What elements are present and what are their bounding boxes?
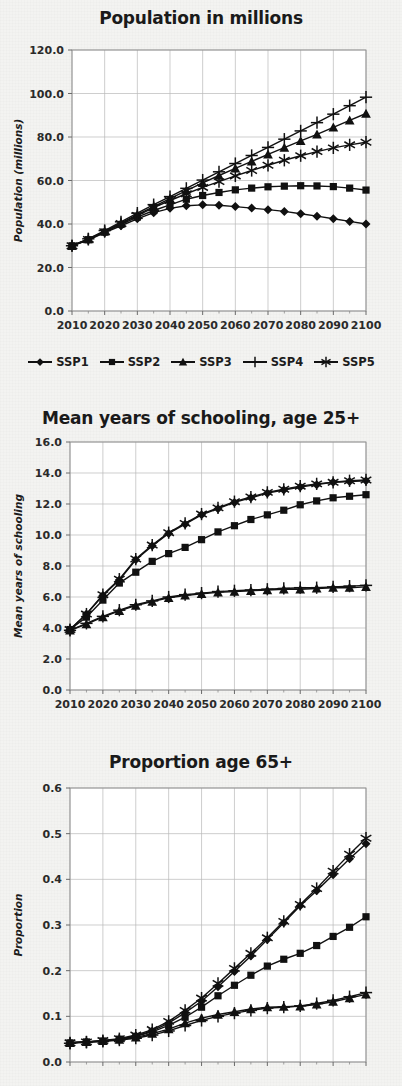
series-marker-square [313, 942, 320, 949]
series-marker-square [109, 359, 115, 365]
legend-item-ssp1[interactable]: SSP1 [27, 355, 88, 369]
legend-marker-triangle-icon [170, 355, 196, 369]
series-marker-plus [249, 357, 260, 368]
chart-panel-population: Population in millions 0.020.040.060.080… [0, 0, 402, 390]
series-marker-square [346, 924, 353, 931]
series-marker-square [165, 550, 172, 557]
legend-item-label: SSP1 [56, 355, 88, 369]
plot-area-population: 0.020.040.060.080.0100.0120.020102020203… [0, 28, 402, 373]
x-axis-tick-label: 2050 [186, 698, 217, 711]
x-axis-tick-label: 2080 [285, 698, 316, 711]
y-axis-tick-label: 0.0 [43, 684, 63, 697]
x-axis-tick-label: 2030 [120, 698, 151, 711]
series-marker-square [215, 189, 222, 196]
x-axis-tick-label: 2080 [285, 319, 316, 332]
series-marker-square [247, 972, 254, 979]
series-marker-square [264, 511, 271, 518]
population-chart-svg: 0.020.040.060.080.0100.0120.020102020203… [0, 28, 402, 373]
chart-panel-proportion: Proportion age 65+ 0.00.10.20.30.40.50.6… [0, 730, 402, 1086]
series-marker-square [214, 528, 221, 535]
y-axis-tick-label: 10.0 [35, 529, 62, 542]
series-marker-square [280, 956, 287, 963]
y-axis-tick-label: 2.0 [43, 653, 63, 666]
series-marker-square [248, 185, 255, 192]
x-axis-tick-label: 2020 [88, 698, 119, 711]
y-axis-title: Proportion [12, 894, 24, 957]
y-axis-tick-label: 0.5 [43, 828, 63, 841]
x-axis-tick-label: 2020 [89, 319, 120, 332]
legend-item-ssp4[interactable]: SSP4 [242, 355, 303, 369]
x-axis-tick-label: 2030 [122, 319, 153, 332]
series-marker-square [313, 497, 320, 504]
series-marker-square [232, 186, 239, 193]
y-axis-tick-label: 0.0 [45, 305, 65, 318]
x-axis-tick-label: 2100 [351, 698, 382, 711]
y-axis-tick-label: 6.0 [43, 591, 63, 604]
x-axis-tick-label: 2040 [155, 319, 186, 332]
y-axis-tick-label: 8.0 [43, 560, 63, 573]
y-axis-tick-label: 14.0 [35, 467, 62, 480]
series-marker-square [362, 186, 369, 193]
series-marker-square [182, 544, 189, 551]
series-marker-square [198, 536, 205, 543]
chart-panel-schooling: Mean years of schooling, age 25+ 0.02.04… [0, 390, 402, 730]
legend-marker-asterisk-icon [313, 355, 339, 369]
y-axis-title: Mean years of schooling [12, 494, 24, 638]
x-axis-tick-label: 2090 [318, 319, 349, 332]
y-axis-tick-label: 0.3 [43, 919, 63, 932]
series-marker-square [330, 183, 337, 190]
series-marker-square [247, 516, 254, 523]
series-marker-square [330, 933, 337, 940]
series-marker-square [297, 182, 304, 189]
series-marker-square [280, 507, 287, 514]
series-marker-square [362, 913, 369, 920]
legend-item-label: SSP4 [271, 355, 303, 369]
y-axis-tick-label: 40.0 [37, 218, 64, 231]
x-axis-tick-label: 2060 [219, 698, 250, 711]
y-axis-tick-label: 0.0 [43, 1056, 63, 1069]
y-axis-tick-label: 120.0 [29, 44, 64, 57]
plot-area-proportion: 0.00.10.20.30.40.50.6Proportion [0, 772, 402, 1082]
legend-marker-diamond-icon [27, 355, 53, 369]
chart-title-proportion: Proportion age 65+ [0, 730, 402, 772]
proportion-chart-svg: 0.00.10.20.30.40.50.6Proportion [0, 772, 402, 1082]
series-marker-square [231, 522, 238, 529]
series-marker-square [346, 493, 353, 500]
series-marker-square [346, 185, 353, 192]
schooling-chart-svg: 0.02.04.06.08.010.012.014.016.0201020202… [0, 428, 402, 728]
figure-page: Population in millions 0.020.040.060.080… [0, 0, 402, 1086]
series-marker-square [132, 569, 139, 576]
series-marker-diamond [36, 358, 44, 366]
x-axis-tick-label: 2010 [57, 319, 88, 332]
series-marker-square [330, 494, 337, 501]
chart-title-schooling: Mean years of schooling, age 25+ [0, 390, 402, 428]
legend-item-ssp5[interactable]: SSP5 [313, 355, 374, 369]
series-marker-square [231, 982, 238, 989]
series-marker-square [297, 501, 304, 508]
legend-marker-square-icon [99, 355, 125, 369]
y-axis-tick-label: 0.1 [43, 1010, 63, 1023]
x-axis-tick-label: 2090 [318, 698, 349, 711]
x-axis-tick-label: 2100 [351, 319, 382, 332]
series-marker-square [198, 1004, 205, 1011]
x-axis-tick-label: 2060 [220, 319, 251, 332]
legend-marker-plus-icon [242, 355, 268, 369]
y-axis-tick-label: 16.0 [35, 436, 62, 449]
y-axis-tick-label: 12.0 [35, 498, 62, 511]
chart-title-population: Population in millions [0, 0, 402, 28]
plot-area-schooling: 0.02.04.06.08.010.012.014.016.0201020202… [0, 428, 402, 728]
y-axis-tick-label: 0.6 [43, 782, 63, 795]
legend-item-ssp3[interactable]: SSP3 [170, 355, 231, 369]
series-marker-square [264, 183, 271, 190]
y-axis-tick-label: 0.2 [43, 965, 63, 978]
y-axis-tick-label: 0.4 [43, 873, 63, 886]
y-axis-tick-label: 100.0 [29, 88, 64, 101]
x-axis-tick-label: 2040 [153, 698, 184, 711]
series-marker-square [362, 491, 369, 498]
x-axis-tick-label: 2050 [187, 319, 218, 332]
series-marker-square [313, 182, 320, 189]
legend-item-label: SSP3 [199, 355, 231, 369]
x-axis-tick-label: 2010 [55, 698, 86, 711]
y-axis-title: Population (millions) [12, 119, 24, 242]
legend-item-ssp2[interactable]: SSP2 [99, 355, 160, 369]
